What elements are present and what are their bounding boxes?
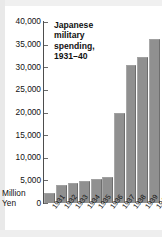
y-axis-tick-label: 15,000 [0,131,41,140]
y-axis-zero-label: 0 [36,199,41,209]
y-axis-tick-label: 25,000 [0,85,41,94]
plot-area [44,22,160,203]
y-axis-tick-label: 10,000 [0,153,41,162]
bar-1937 [114,113,125,203]
y-axis-tick-label: 20,000 [0,108,41,117]
y-axis-tick-label: 5,000 [0,176,41,185]
bar-1938 [126,65,137,203]
y-axis-tick [44,203,48,204]
bar-1940 [149,39,160,203]
bar-1939 [137,57,148,203]
page-gutter-bottom [0,230,162,237]
chart-figure: Japanese military spending, 1931–40 40,0… [0,0,162,237]
y-axis-tick-label: 35,000 [0,40,41,49]
y-axis-unit-label: Million Yen 0 [0,189,41,208]
y-axis-tick-label: 30,000 [0,63,41,72]
page-gutter-top [0,0,162,6]
y-axis-tick-label: 40,000 [0,17,41,26]
unit-label-line2: Yen [2,198,16,208]
